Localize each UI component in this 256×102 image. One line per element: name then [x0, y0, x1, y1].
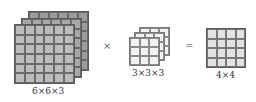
grid-cell: [217, 58, 227, 68]
output-grid: [206, 28, 246, 68]
output-label: 4×4: [216, 70, 235, 80]
grid-cell: [25, 25, 35, 35]
grid-cell: [35, 54, 45, 64]
grid-cell: [15, 35, 25, 45]
grid-cell: [54, 54, 64, 64]
grid-cell: [130, 56, 140, 65]
grid-cell: [226, 58, 236, 68]
grid-cell: [217, 29, 227, 39]
grid-cell: [25, 54, 35, 64]
grid-cell: [15, 73, 25, 83]
grid-cell: [35, 44, 45, 54]
grid-cell: [44, 54, 54, 64]
input-layer-1: [14, 24, 75, 84]
grid-cell: [44, 73, 54, 83]
grid-cell: [44, 25, 54, 35]
grid-cell: [207, 58, 217, 68]
kernel-label: 3×3×3: [132, 68, 164, 78]
grid-cell: [15, 64, 25, 74]
grid-cell: [236, 58, 246, 68]
grid-cell: [64, 35, 74, 45]
grid-cell: [25, 35, 35, 45]
grid-cell: [130, 47, 140, 56]
grid-cell: [64, 73, 74, 83]
grid-cell: [54, 25, 64, 35]
equals-operator: =: [185, 40, 193, 51]
grid-cell: [35, 35, 45, 45]
grid-cell: [226, 48, 236, 58]
grid-cell: [207, 29, 217, 39]
grid-cell: [226, 39, 236, 49]
grid-cell: [15, 25, 25, 35]
grid-cell: [25, 73, 35, 83]
grid-cell: [35, 25, 45, 35]
grid-cell: [54, 73, 64, 83]
grid-cell: [149, 56, 159, 65]
grid-cell: [217, 39, 227, 49]
grid-cell: [64, 25, 74, 35]
grid-cell: [149, 38, 159, 47]
grid-cell: [44, 44, 54, 54]
grid-cell: [15, 54, 25, 64]
kernel-layer-1: [129, 37, 160, 66]
grid-cell: [207, 39, 217, 49]
grid-cell: [236, 48, 246, 58]
grid-cell: [236, 39, 246, 49]
grid-cell: [140, 56, 150, 65]
grid-cell: [44, 64, 54, 74]
input-label: 6×6×3: [32, 86, 64, 96]
grid-cell: [226, 29, 236, 39]
grid-cell: [35, 73, 45, 83]
grid-cell: [44, 35, 54, 45]
grid-cell: [54, 64, 64, 74]
grid-cell: [54, 44, 64, 54]
grid-cell: [25, 44, 35, 54]
grid-cell: [207, 48, 217, 58]
grid-cell: [236, 29, 246, 39]
grid-cell: [149, 47, 159, 56]
grid-cell: [64, 64, 74, 74]
grid-cell: [54, 35, 64, 45]
multiply-operator: ×: [103, 40, 111, 51]
grid-cell: [35, 64, 45, 74]
grid-cell: [140, 47, 150, 56]
grid-cell: [217, 48, 227, 58]
grid-cell: [64, 44, 74, 54]
grid-cell: [64, 54, 74, 64]
grid-cell: [25, 64, 35, 74]
grid-cell: [140, 38, 150, 47]
grid-cell: [15, 44, 25, 54]
grid-cell: [130, 38, 140, 47]
